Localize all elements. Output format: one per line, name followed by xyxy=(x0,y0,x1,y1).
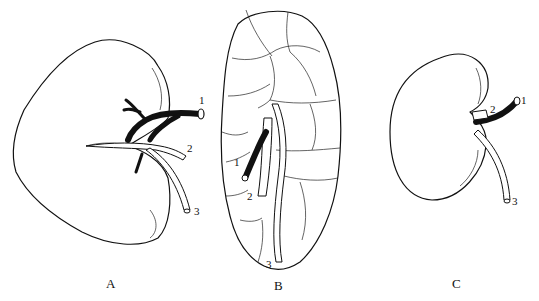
callout-a-1: 1 xyxy=(199,94,205,106)
callout-c-3: 3 xyxy=(512,195,518,207)
panel-label-a: A xyxy=(106,276,116,291)
panel-a: 1 2 3 A xyxy=(13,40,204,291)
callout-b-3: 3 xyxy=(266,258,272,270)
vessel-c-2 xyxy=(472,110,488,120)
kidney-figure: 1 2 3 A 1 2 3 B xyxy=(0,0,539,301)
callout-c-2: 2 xyxy=(490,103,496,115)
callout-b-2: 2 xyxy=(247,190,253,202)
kidney-a-outline xyxy=(13,40,170,244)
panel-b: 1 2 3 B xyxy=(221,10,340,293)
panel-c: 1 2 3 C xyxy=(390,54,527,291)
panel-label-b: B xyxy=(274,278,283,293)
callout-b-1: 1 xyxy=(234,156,240,168)
callout-c-1: 1 xyxy=(521,94,527,106)
callout-a-2: 2 xyxy=(187,142,193,154)
kidney-c-outline xyxy=(390,54,488,200)
panel-label-c: C xyxy=(452,276,461,291)
callout-a-3: 3 xyxy=(194,205,200,217)
